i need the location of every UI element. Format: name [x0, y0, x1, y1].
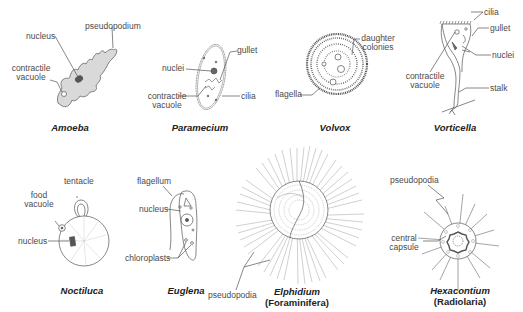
vorticella-nuclei-label: nuclei [492, 51, 514, 60]
protozoa-diagram [0, 0, 523, 312]
elphidium-pseudopodia-label: pseudopodia [208, 291, 257, 300]
paramecium-title: Paramecium [165, 122, 235, 133]
hexacontium-pseudopodia-label: pseudopodia [390, 176, 439, 185]
paramecium-cilia-label: cilia [241, 92, 256, 101]
volvox-daughter-colonies-label: daughter colonies [356, 34, 400, 52]
paramecium-contractile-vacuole-label: contractile vacuole [144, 92, 190, 110]
amoeba-nucleus-label: nucleus [26, 32, 55, 41]
vorticella-title: Vorticella [425, 122, 485, 133]
volvox-title: Volvox [310, 122, 360, 133]
elphidium-title: Elphidium [262, 286, 332, 297]
hexacontium-drawing [418, 185, 499, 290]
amoeba-contractile-vacuole-label: contractile vacuole [8, 64, 54, 82]
noctiluca-drawing [48, 196, 109, 266]
euglena-nucleus-label: nucleus [139, 205, 168, 214]
volvox-flagella-label: flagella [275, 90, 302, 99]
amoeba-pseudopodium-label: pseudopodium [85, 22, 141, 31]
hexacontium-title: Hexacontium [420, 285, 500, 296]
hexacontium-group: (Radiolaria) [420, 296, 500, 307]
euglena-chloroplasts-label: chloroplasts [125, 254, 170, 263]
paramecium-nuclei-label: nuclei [162, 64, 184, 73]
vorticella-drawing [430, 12, 491, 115]
hexacontium-central-capsule-label: central capsule [384, 234, 424, 252]
noctiluca-nucleus-label: nucleus [18, 237, 47, 246]
vorticella-stalk-label: stalk [490, 84, 507, 93]
noctiluca-food-vacuole-label: food vacuole [22, 191, 56, 209]
noctiluca-title: Noctiluca [52, 285, 112, 296]
euglena-drawing [163, 186, 197, 260]
elphidium-group: (Foraminifera) [252, 297, 342, 308]
euglena-flagellum-label: flagellum [137, 177, 171, 186]
vorticella-contractile-vacuole-label: contractile vacuole [402, 72, 448, 90]
euglena-title: Euglena [156, 285, 216, 296]
vorticella-cilia-label: cilia [484, 8, 499, 17]
paramecium-gullet-label: gullet [237, 46, 257, 55]
elphidium-drawing [236, 146, 364, 290]
amoeba-title: Amoeba [40, 122, 100, 133]
amoeba-drawing [50, 27, 117, 107]
noctiluca-tentacle-label: tentacle [64, 177, 94, 186]
vorticella-gullet-label: gullet [490, 24, 510, 33]
